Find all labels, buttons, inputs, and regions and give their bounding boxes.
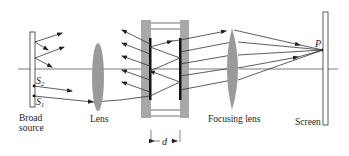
label-source: source [19,123,44,133]
broad-source [30,32,120,107]
label-p: P [314,38,321,49]
plate-2-coating [179,38,182,100]
focusing-lens [227,28,239,110]
lens [92,43,104,111]
label-lens: Lens [90,114,109,124]
screen [323,12,328,125]
label-s1: S1 [36,96,44,108]
label-d: d [162,136,168,147]
label-focusing-lens: Focusing lens [208,114,261,124]
fabry-perot-diagram: S2 S1 Broad source Lens Focusing lens Sc… [0,0,349,156]
label-s2: S2 [36,75,45,87]
label-broad: Broad [19,113,42,123]
converging-rays [234,30,325,80]
label-screen: Screen [295,117,321,127]
